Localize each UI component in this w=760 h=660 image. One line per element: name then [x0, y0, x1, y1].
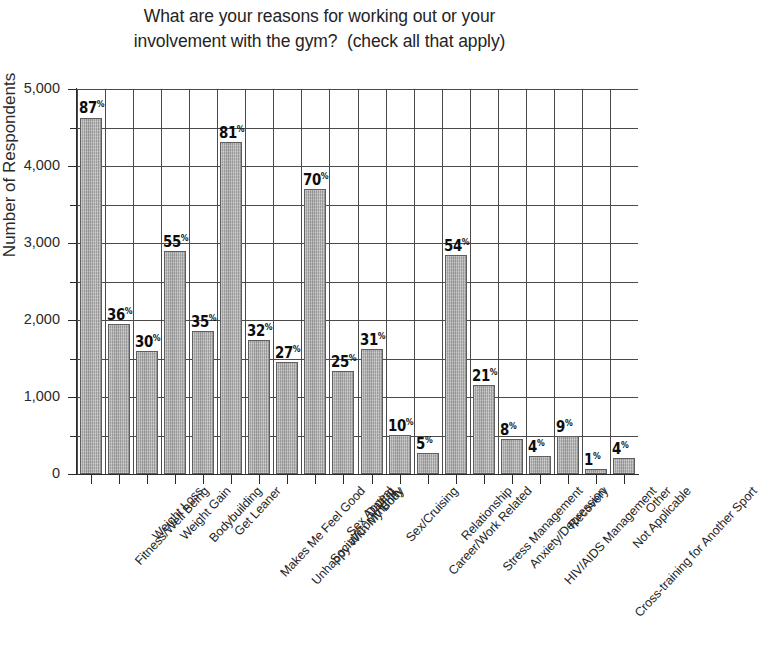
bar-value-label: 8%: [500, 421, 516, 439]
gridline-vertical: [526, 89, 527, 474]
y-axis-tick-major: [68, 243, 77, 244]
gridline-vertical: [329, 89, 330, 474]
bar-value-label: 4%: [612, 440, 628, 458]
x-axis-labels: Fitness/Well BeingWeight LossWeight Gain…: [0, 474, 639, 660]
percent-sign: %: [97, 99, 104, 109]
gridline-vertical: [133, 89, 134, 474]
bar: [192, 331, 214, 474]
percent-sign: %: [593, 451, 600, 461]
y-axis-tick-minor: [70, 436, 77, 437]
gridlines: [77, 89, 638, 474]
gridline-vertical: [386, 89, 387, 474]
percent-sign: %: [321, 171, 328, 181]
bar: [304, 189, 326, 474]
bar-value-label: 87%: [79, 99, 104, 117]
bar: [445, 255, 467, 474]
bar: [557, 436, 579, 474]
gridline-vertical: [77, 89, 78, 474]
bar-value-label: 35%: [191, 313, 216, 331]
percent-sign: %: [425, 435, 432, 445]
percent-sign: %: [621, 440, 628, 450]
percent-sign: %: [537, 438, 544, 448]
y-axis-tick-major: [68, 397, 77, 398]
percent-sign: %: [125, 306, 132, 316]
percent-sign: %: [462, 237, 469, 247]
bar: [501, 439, 523, 474]
bar-value-label: 10%: [388, 417, 413, 435]
bar-value-label: 30%: [135, 333, 160, 351]
bar-value-label: 31%: [360, 331, 385, 349]
gridline-vertical: [245, 89, 246, 474]
y-axis-tick-major: [68, 320, 77, 321]
bar: [361, 349, 383, 474]
chart-title-line-1: What are your reasons for working out or…: [0, 4, 639, 29]
percent-sign: %: [490, 367, 497, 377]
bar: [136, 351, 158, 474]
bar-value-label: 27%: [275, 344, 300, 362]
bar: [389, 435, 411, 474]
y-axis-tick-minor: [70, 128, 77, 129]
gridline-vertical: [498, 89, 499, 474]
gridline-vertical: [582, 89, 583, 474]
x-axis-category-label: Sex/Cruising: [403, 484, 461, 545]
percent-sign: %: [181, 233, 188, 243]
gridline-vertical: [442, 89, 443, 474]
bar-value-label: 1%: [584, 451, 600, 469]
bar-value-label: 25%: [331, 353, 356, 371]
y-axis-tick-major: [68, 89, 77, 90]
percent-sign: %: [209, 313, 216, 323]
y-axis-tick-label: 4,000: [0, 157, 60, 173]
gridline-vertical: [189, 89, 190, 474]
bar-value-label: 70%: [303, 171, 328, 189]
bar-value-label: 55%: [163, 233, 188, 251]
percent-sign: %: [509, 421, 516, 431]
gridline-vertical: [610, 89, 611, 474]
bar-value-label: 81%: [219, 124, 244, 142]
bar: [80, 118, 102, 475]
chart-title: What are your reasons for working out or…: [0, 4, 639, 54]
bar: [248, 340, 270, 474]
percent-sign: %: [293, 344, 300, 354]
percent-sign: %: [349, 353, 356, 363]
y-axis-tick-minor: [70, 205, 77, 206]
plot-area: 87%36%30%55%35%81%32%27%70%25%31%10%5%54…: [77, 89, 638, 474]
percent-sign: %: [153, 333, 160, 343]
gridline-vertical: [273, 89, 274, 474]
gridline-vertical: [470, 89, 471, 474]
bar: [332, 371, 354, 474]
y-axis-tick-label: 3,000: [0, 234, 60, 250]
bar: [220, 142, 242, 474]
percent-sign: %: [377, 331, 384, 341]
y-axis-tick-label: 1,000: [0, 388, 60, 404]
y-axis-tick-minor: [70, 282, 77, 283]
bar: [613, 458, 635, 474]
y-axis-tick-major: [68, 166, 77, 167]
bar-value-label: 54%: [444, 237, 469, 255]
percent-sign: %: [265, 322, 272, 332]
y-axis-tick-label: 2,000: [0, 311, 60, 327]
percent-sign: %: [565, 418, 572, 428]
bar-value-label: 32%: [247, 322, 272, 340]
gridline-vertical: [554, 89, 555, 474]
bar: [529, 456, 551, 474]
bar-value-label: 5%: [416, 435, 432, 453]
gridline-vertical: [358, 89, 359, 474]
gridline-vertical: [217, 89, 218, 474]
bar-value-label: 21%: [472, 367, 497, 385]
gridline-vertical: [414, 89, 415, 474]
percent-sign: %: [237, 124, 244, 134]
bar-value-label: 4%: [528, 438, 544, 456]
y-axis-tick-label: 5,000: [0, 80, 60, 96]
bar-value-label: 36%: [107, 306, 132, 324]
gridline-vertical: [105, 89, 106, 474]
gridline-vertical: [301, 89, 302, 474]
gridline-vertical: [161, 89, 162, 474]
bar: [276, 362, 298, 474]
bar: [164, 251, 186, 474]
bar-value-label: 9%: [556, 418, 572, 436]
bar: [473, 385, 495, 474]
chart-title-line-2: involvement with the gym? (check all tha…: [0, 29, 639, 54]
percent-sign: %: [405, 417, 412, 427]
y-axis-tick-minor: [70, 359, 77, 360]
bar: [417, 453, 439, 474]
